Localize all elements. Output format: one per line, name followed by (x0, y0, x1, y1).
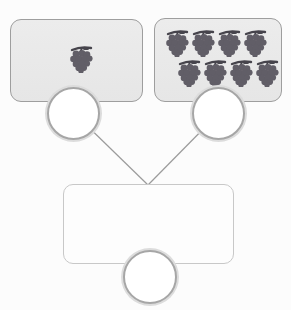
grape-icon (216, 27, 242, 57)
grape-icon (254, 57, 280, 87)
answer-circle-left[interactable] (47, 87, 100, 140)
grape-icon (242, 27, 268, 57)
grape-icon (176, 57, 202, 87)
answer-circle-total[interactable] (123, 250, 177, 304)
grape-icon (164, 27, 190, 57)
answer-circle-right[interactable] (192, 87, 245, 140)
grape-icon (228, 57, 254, 87)
grape-icon (190, 27, 216, 57)
number-bond-worksheet (0, 0, 291, 310)
grape-icon (68, 43, 94, 73)
grape-icon (202, 57, 228, 87)
